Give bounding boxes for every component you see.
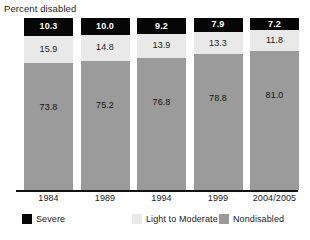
bar-segment-light-to-moderate[interactable]: 13.3 <box>194 32 243 55</box>
bar-segment-light-to-moderate[interactable]: 14.8 <box>81 35 130 60</box>
page-title: Percent disabled <box>4 3 76 14</box>
bar-value-label: 81.0 <box>266 91 284 100</box>
legend-item[interactable]: Light to Moderate <box>132 212 218 226</box>
bar-segment-light-to-moderate[interactable]: 11.8 <box>250 30 299 50</box>
bar-group[interactable]: 9.213.976.8 <box>137 18 186 190</box>
bar-value-label: 15.9 <box>40 45 58 54</box>
legend-swatch-icon <box>132 214 142 224</box>
bar-segment-nondisabled[interactable]: 76.8 <box>137 58 186 190</box>
bar-segment-nondisabled[interactable]: 78.8 <box>194 54 243 190</box>
bar-group[interactable]: 7.913.378.8 <box>194 18 243 190</box>
bar-value-label: 76.8 <box>153 98 171 107</box>
bar-group[interactable]: 10.315.973.8 <box>24 18 73 190</box>
legend-label: Light to Moderate <box>146 214 218 224</box>
chart-container: Percent disabled 10.315.973.810.014.875.… <box>0 0 310 240</box>
bar-segment-severe[interactable]: 7.2 <box>250 18 299 30</box>
bar-value-label: 78.8 <box>209 94 227 103</box>
plot-area: 10.315.973.810.014.875.29.213.976.87.913… <box>0 18 310 190</box>
bar-segment-nondisabled[interactable]: 81.0 <box>250 51 299 190</box>
legend-swatch-icon <box>22 214 32 224</box>
bar-segment-nondisabled[interactable]: 75.2 <box>81 61 130 190</box>
legend-label: Nondisabled <box>233 214 284 224</box>
legend-swatch-icon <box>219 214 229 224</box>
axis-baseline <box>16 190 298 192</box>
bar-value-label: 7.9 <box>212 20 225 29</box>
bar-value-label: 7.2 <box>268 20 281 29</box>
bar-segment-severe[interactable]: 7.9 <box>194 18 243 32</box>
bar-segment-light-to-moderate[interactable]: 13.9 <box>137 34 186 58</box>
bar-segment-nondisabled[interactable]: 73.8 <box>24 63 73 190</box>
bar-value-label: 75.2 <box>96 101 114 110</box>
bar-segment-light-to-moderate[interactable]: 15.9 <box>24 36 73 63</box>
bar-value-label: 73.8 <box>40 103 58 112</box>
bar-value-label: 9.2 <box>155 22 168 31</box>
bar-segment-severe[interactable]: 10.3 <box>24 18 73 36</box>
bar-value-label: 11.8 <box>266 36 283 45</box>
bar-group[interactable]: 7.211.881.0 <box>250 18 299 190</box>
x-axis-tick-label: 2004/2005 <box>240 193 310 203</box>
bar-group[interactable]: 10.014.875.2 <box>81 18 130 190</box>
bar-segment-severe[interactable]: 9.2 <box>137 18 186 34</box>
legend-item[interactable]: Nondisabled <box>219 212 284 226</box>
bar-segment-severe[interactable]: 10.0 <box>81 18 130 35</box>
bar-value-label: 10.3 <box>40 22 58 31</box>
bar-value-label: 10.0 <box>96 22 114 31</box>
legend-label: Severe <box>36 214 65 224</box>
bar-value-label: 13.3 <box>209 39 227 48</box>
chart-legend: SevereLight to ModerateNondisabled <box>0 212 310 230</box>
bar-value-label: 13.9 <box>153 41 171 50</box>
legend-item[interactable]: Severe <box>22 212 65 226</box>
bar-value-label: 14.8 <box>96 43 114 52</box>
